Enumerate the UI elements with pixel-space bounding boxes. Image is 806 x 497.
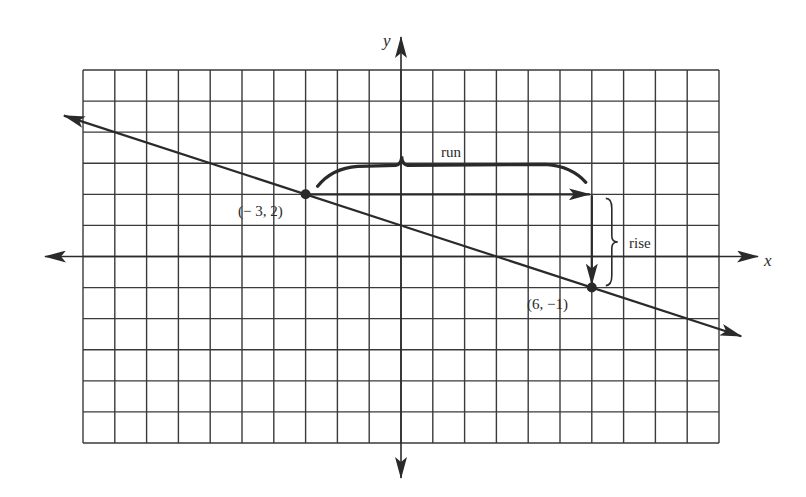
rise-label: rise bbox=[629, 236, 651, 251]
point-label-a: (− 3, 2) bbox=[238, 204, 283, 219]
coordinate-grid-plot bbox=[0, 0, 806, 497]
y-axis-label: y bbox=[383, 32, 391, 49]
point-label-b: (6, −1) bbox=[527, 297, 568, 312]
slope-diagram: y x run rise (− 3, 2) (6, −1) bbox=[0, 0, 806, 497]
braces bbox=[318, 156, 618, 285]
x-axis-label: x bbox=[764, 252, 772, 269]
run-label: run bbox=[441, 145, 461, 160]
